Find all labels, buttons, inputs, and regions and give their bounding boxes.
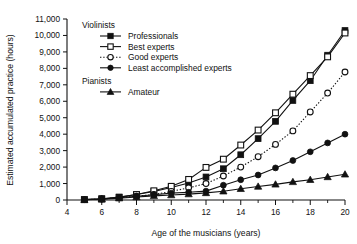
- data-point-marker: [255, 154, 261, 160]
- y-tick-label: 7,000: [39, 80, 60, 90]
- x-axis-title: Age of the musicians (years): [152, 228, 261, 238]
- data-point-marker: [290, 98, 296, 104]
- data-point-marker: [342, 69, 348, 75]
- y-tick-label: 6,000: [39, 96, 60, 106]
- data-point-marker: [203, 165, 209, 171]
- y-tick-label: 10,000: [35, 30, 61, 40]
- data-point-marker: [290, 128, 296, 134]
- y-tick-label: 8,000: [39, 63, 60, 73]
- y-tick-label: 11,000: [35, 14, 60, 24]
- data-point-marker: [108, 44, 113, 49]
- x-tick-label: 12: [201, 207, 211, 217]
- legend-entry-label: Professionals: [128, 31, 178, 41]
- data-point-marker: [238, 177, 244, 183]
- y-axis-title-text: Estimated accumulated practice (hours): [5, 34, 15, 186]
- y-tick-label: 9,000: [39, 47, 60, 57]
- data-point-marker: [290, 91, 296, 97]
- data-point-marker: [186, 177, 192, 183]
- data-point-marker: [325, 140, 331, 146]
- chart-figure: Estimated accumulated practice (hours) 0…: [0, 0, 357, 244]
- data-point-marker: [273, 141, 279, 147]
- legend-group-heading: Violinists: [82, 20, 115, 30]
- legend-entry-label: Least accomplished experts: [128, 63, 232, 73]
- y-tick-label: 3,000: [39, 146, 60, 156]
- y-tick-label: 5,000: [39, 113, 60, 123]
- y-tick-label: 2,000: [39, 162, 60, 172]
- data-point-marker: [273, 118, 279, 124]
- data-point-marker: [220, 173, 226, 179]
- data-point-marker: [108, 55, 113, 60]
- x-tick-label: 6: [99, 207, 104, 217]
- legend-entry-label: Good experts: [128, 52, 178, 62]
- legend-entry-label: Best experts: [128, 42, 175, 52]
- data-point-marker: [238, 142, 244, 148]
- data-point-marker: [307, 109, 313, 115]
- legend-group-heading: Pianists: [82, 76, 111, 86]
- practice-hours-line-chart: Estimated accumulated practice (hours) 0…: [0, 0, 357, 244]
- y-tick-label: 1,000: [39, 179, 60, 189]
- data-point-marker: [108, 33, 113, 38]
- x-tick-label: 14: [236, 207, 246, 217]
- data-point-marker: [342, 30, 348, 36]
- x-tick-label: 10: [167, 207, 177, 217]
- y-axis-title: Estimated accumulated practice (hours): [5, 34, 15, 186]
- data-point-marker: [325, 54, 331, 60]
- data-point-marker: [255, 127, 261, 133]
- data-point-marker: [108, 65, 113, 70]
- x-tick-label: 16: [271, 207, 281, 217]
- x-tick-label: 18: [306, 207, 316, 217]
- data-point-marker: [220, 166, 226, 172]
- data-point-marker: [290, 158, 296, 164]
- y-tick-label: 0: [55, 195, 60, 205]
- data-point-marker: [325, 90, 331, 96]
- data-point-marker: [307, 149, 313, 155]
- data-point-marker: [307, 73, 313, 79]
- data-point-marker: [203, 181, 209, 187]
- data-point-marker: [342, 131, 348, 137]
- y-tick-label: 4,000: [39, 129, 60, 139]
- x-tick-label: 8: [134, 207, 139, 217]
- x-tick-label: 4: [65, 207, 70, 217]
- data-point-marker: [238, 164, 244, 170]
- data-point-marker: [273, 165, 279, 171]
- data-point-marker: [203, 174, 209, 180]
- x-tick-label: 20: [340, 207, 350, 217]
- data-point-marker: [273, 110, 279, 116]
- x-axis-title-text: Age of the musicians (years): [152, 228, 261, 238]
- data-point-marker: [238, 152, 244, 158]
- data-point-marker: [220, 156, 226, 162]
- data-point-marker: [255, 136, 261, 142]
- data-point-marker: [255, 172, 261, 178]
- legend-entry-label: Amateur: [128, 87, 160, 97]
